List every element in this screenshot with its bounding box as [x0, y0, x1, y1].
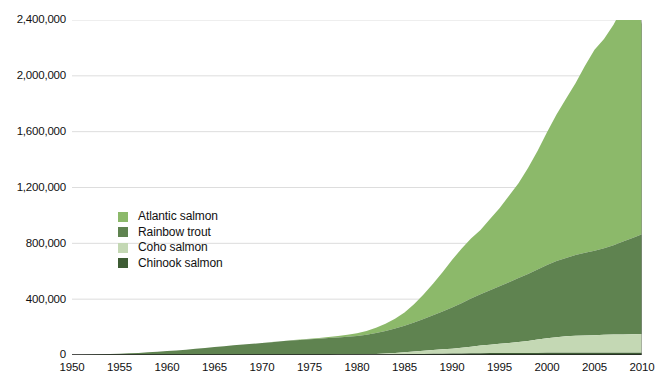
x-tick-label: 1985 [392, 361, 417, 374]
x-tick-label: 2000 [535, 361, 560, 374]
y-tick-label: 800,000 [0, 238, 66, 250]
legend-item-coho-salmon: Coho salmon [118, 240, 223, 256]
y-tick-label: 2,400,000 [0, 14, 66, 26]
legend-item-rainbow-trout: Rainbow trout [118, 225, 223, 241]
legend-item-atlantic-salmon: Atlantic salmon [118, 209, 223, 225]
x-tick-label: 2010 [630, 361, 655, 374]
legend-item-label: Chinook salmon [138, 257, 223, 270]
legend-item-label: Rainbow trout [138, 226, 211, 239]
x-axis: 1950195519601965197019751980198519901995… [72, 361, 652, 377]
x-tick-label: 1975 [297, 361, 322, 374]
x-tick-label: 2005 [582, 361, 607, 374]
legend-item-label: Coho salmon [138, 241, 208, 254]
legend-item-label: Atlantic salmon [138, 210, 218, 223]
legend-swatch-icon [118, 243, 128, 253]
plot-area [72, 20, 642, 355]
legend-swatch-icon [118, 212, 128, 222]
x-tick-label: 1970 [250, 361, 275, 374]
y-tick-label: 2,000,000 [0, 70, 66, 82]
x-tick-label: 1955 [107, 361, 132, 374]
legend-swatch-icon [118, 227, 128, 237]
stacked-area-plot [72, 20, 642, 355]
x-tick-label: 1960 [155, 361, 180, 374]
y-tick-label: 1,600,000 [0, 126, 66, 138]
x-tick-label: 1980 [345, 361, 370, 374]
x-tick-label: 1950 [60, 361, 85, 374]
y-tick-label: 400,000 [0, 294, 66, 306]
x-tick-label: 1965 [202, 361, 227, 374]
chart-container: 2,400,000 2,000,000 1,600,000 1,200,000 … [0, 0, 655, 378]
legend-swatch-icon [118, 258, 128, 268]
legend: Atlantic salmon Rainbow trout Coho salmo… [118, 209, 223, 271]
y-tick-label: 1,200,000 [0, 182, 66, 194]
x-tick-label: 1990 [440, 361, 465, 374]
legend-item-chinook-salmon: Chinook salmon [118, 256, 223, 272]
x-tick-label: 1995 [487, 361, 512, 374]
y-tick-label: 0 [0, 349, 66, 361]
y-axis: 2,400,000 2,000,000 1,600,000 1,200,000 … [0, 0, 66, 378]
